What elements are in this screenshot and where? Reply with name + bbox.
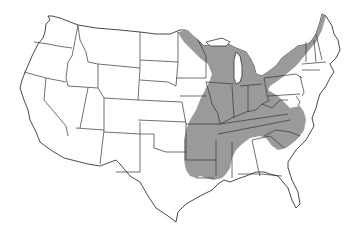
us-map — [0, 0, 358, 238]
lake-superior — [206, 38, 230, 46]
